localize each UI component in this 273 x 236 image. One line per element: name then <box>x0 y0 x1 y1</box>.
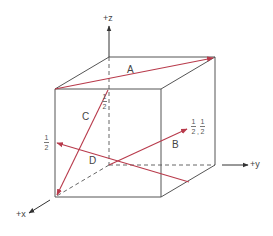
vector-a-label: A <box>127 65 134 75</box>
x-axis <box>29 200 50 213</box>
vector-c-label: C <box>82 112 89 122</box>
vector-c <box>57 90 108 195</box>
fraction-c-start: 1 2 <box>102 93 107 110</box>
vector-b-label: B <box>172 140 179 150</box>
cube-drawing <box>0 0 273 236</box>
x-axis-label: +x <box>16 210 26 219</box>
y-axis-label: +y <box>250 160 260 169</box>
unit-cell-diagram: +z +y +x A B C D 1 2 1 2 1 2 , 1 2 <box>0 0 273 236</box>
vector-d <box>57 143 189 182</box>
z-axis-label: +z <box>103 14 113 23</box>
fraction-d-end: 1 2 <box>44 134 49 151</box>
direction-vectors <box>55 58 213 195</box>
vector-d-label: D <box>89 156 96 166</box>
vector-a <box>55 58 213 89</box>
fraction-b-end: 1 2 , 1 2 <box>191 118 205 135</box>
